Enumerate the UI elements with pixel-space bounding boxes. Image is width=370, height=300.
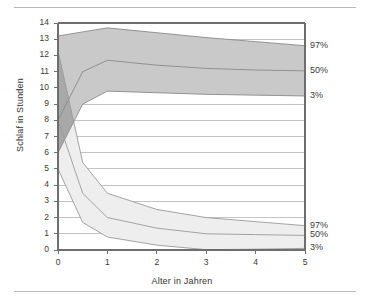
percentile-label: 3% [310, 90, 323, 100]
y-axis-title: Schlaf in Stunden [15, 55, 25, 175]
y-tick-label: 1 [27, 228, 49, 238]
y-tick-label: 11 [27, 66, 49, 76]
x-axis-title: Alter in Jahren [58, 276, 306, 286]
x-tick-label: 3 [196, 257, 216, 267]
y-tick-label: 12 [27, 49, 49, 59]
y-tick-label: 5 [27, 163, 49, 173]
x-tick-label: 2 [147, 257, 167, 267]
y-tick-label: 13 [27, 33, 49, 43]
y-tick-label: 7 [27, 131, 49, 141]
percentile-bands [58, 28, 305, 250]
y-tick-label: 2 [27, 212, 49, 222]
y-tick-label: 3 [27, 195, 49, 205]
x-tick-label: 1 [97, 257, 117, 267]
figure-container: Schlaf in Stunden Alter in Jahren 012345… [0, 0, 370, 300]
y-tick-label: 0 [27, 244, 49, 254]
percentile-label: 3% [310, 242, 323, 252]
percentile-label: 97% [310, 220, 328, 230]
x-tick-label: 0 [48, 257, 68, 267]
y-tick-label: 6 [27, 147, 49, 157]
y-tick-label: 10 [27, 82, 49, 92]
y-tick-label: 4 [27, 179, 49, 189]
y-tick-label: 9 [27, 98, 49, 108]
x-tick-label: 5 [295, 257, 315, 267]
y-tick-label: 14 [27, 17, 49, 27]
y-tick-label: 8 [27, 114, 49, 124]
percentile-label: 97% [310, 40, 328, 50]
x-tick-label: 4 [246, 257, 266, 267]
percentile-label: 50% [310, 65, 328, 75]
percentile-label: 50% [310, 229, 328, 239]
